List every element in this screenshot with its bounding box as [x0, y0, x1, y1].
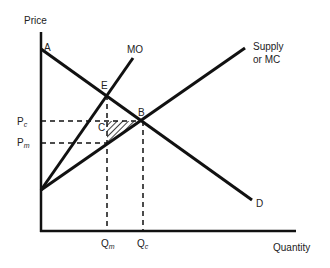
point-e-label: E: [101, 80, 108, 91]
demand-label: D: [256, 198, 263, 209]
point-b-label: B: [138, 107, 145, 118]
supply-label-line1: Supply: [253, 41, 284, 52]
pc-label: Pc: [17, 116, 28, 128]
qm-label: Qm: [101, 238, 115, 250]
point-a-label: A: [44, 42, 51, 53]
monopsony-diagram: Price Quantity A E B C MO Supply or MC D…: [0, 0, 330, 268]
qc-label: Qc: [137, 238, 149, 250]
mo-label: MO: [127, 44, 143, 55]
y-axis-label: Price: [24, 15, 47, 26]
demand-curve: [41, 49, 252, 200]
point-c-label: C: [98, 122, 105, 133]
x-axis-label: Quantity: [273, 242, 310, 253]
supply-label-line2: or MC: [253, 54, 280, 65]
pm-label: Pm: [17, 137, 30, 149]
